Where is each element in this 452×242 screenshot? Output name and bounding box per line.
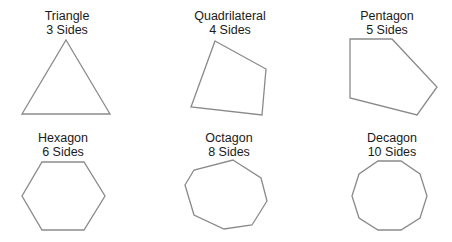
shape-sides: 8 Sides [169, 145, 289, 159]
shape-name: Pentagon [327, 9, 447, 23]
shape-name: Triangle [7, 9, 127, 23]
pentagon-label: Pentagon 5 Sides [327, 9, 447, 37]
pentagon-shape [350, 39, 437, 115]
shape-name: Decagon [332, 131, 452, 145]
shape-sides: 3 Sides [7, 23, 127, 37]
quadrilateral-label: Quadrilateral 4 Sides [170, 9, 290, 37]
shape-name: Octagon [169, 131, 289, 145]
hexagon-label: Hexagon 6 Sides [3, 131, 123, 159]
decagon-label: Decagon 10 Sides [332, 131, 452, 159]
shape-sides: 4 Sides [170, 23, 290, 37]
hexagon-shape [22, 162, 105, 230]
octagon-shape [185, 160, 267, 229]
decagon-shape [352, 161, 427, 230]
octagon-label: Octagon 8 Sides [169, 131, 289, 159]
shape-sides: 10 Sides [332, 145, 452, 159]
shape-name: Hexagon [3, 131, 123, 145]
quadrilateral-shape [191, 41, 266, 115]
shape-name: Quadrilateral [170, 9, 290, 23]
triangle-label: Triangle 3 Sides [7, 9, 127, 37]
shape-sides: 5 Sides [327, 23, 447, 37]
shape-sides: 6 Sides [3, 145, 123, 159]
triangle-shape [22, 40, 110, 114]
